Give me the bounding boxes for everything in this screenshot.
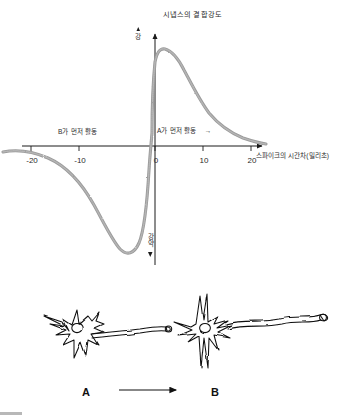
neuron-a-nucleus — [72, 323, 82, 332]
stdp-figure: 시냅스의 결합강도 강 강약 B가 먼저 활동 A가 먼저 활동 → -20 -… — [0, 0, 345, 418]
annotation-b-first: B가 먼저 활동 — [58, 126, 97, 136]
neuron-b-nucleus — [200, 323, 211, 332]
annotation-a-first-text: A가 먼저 활동 — [157, 127, 196, 134]
annotation-a-first: A가 먼저 활동 → — [157, 125, 212, 135]
stdp-chart-svg — [0, 0, 345, 272]
neuron-a-terminal — [166, 327, 170, 331]
x-tick-label-zero: 0 — [144, 156, 168, 165]
neuron-a-axon — [92, 327, 166, 334]
neuron-a — [44, 310, 172, 358]
x-axis-ticks — [31, 146, 251, 151]
neuron-b-axon — [226, 315, 320, 324]
neuron-label-a: A — [82, 386, 90, 398]
neuron-label-b: B — [211, 386, 219, 398]
chart-title: 시냅스의 결합강도 — [163, 9, 222, 19]
x-axis-title: 스파이크의 시간차(밀리초) — [256, 150, 329, 160]
page-corner-mark — [0, 412, 22, 415]
y-axis-strong-label: 강 — [133, 33, 142, 40]
stdp-chart-panel: 시냅스의 결합강도 강 강약 B가 먼저 활동 A가 먼저 활동 → -20 -… — [0, 0, 345, 272]
x-tick-label-10: 10 — [192, 156, 216, 165]
x-tick-label-minus10: -10 — [68, 156, 92, 165]
neuron-diagram-panel: A B — [0, 272, 345, 418]
neuron-diagram-svg — [0, 272, 345, 418]
y-axis-weak-label: 강약 — [146, 233, 155, 247]
y-up-caret-icon — [137, 27, 141, 31]
right-arrow-icon: → — [198, 127, 212, 134]
x-tick-label-minus20: -20 — [20, 156, 44, 165]
stdp-curve — [3, 49, 266, 253]
neuron-b — [174, 294, 328, 368]
y-down-caret-icon — [148, 252, 153, 257]
